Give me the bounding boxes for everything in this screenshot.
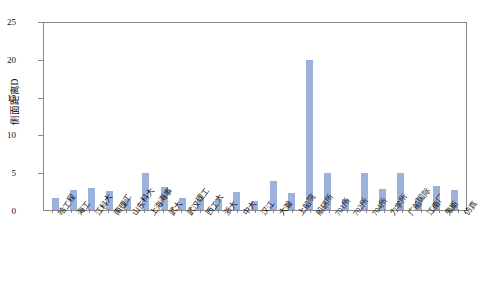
x-tick-mark bbox=[366, 209, 367, 213]
x-tick-mark bbox=[384, 209, 385, 213]
x-tick-mark bbox=[52, 209, 53, 213]
x-tick-mark bbox=[458, 209, 459, 213]
bar-slot bbox=[409, 23, 427, 210]
bar-series bbox=[44, 23, 466, 210]
bar-slot bbox=[101, 23, 119, 210]
x-tick-mark bbox=[292, 209, 293, 213]
x-tick-mark bbox=[200, 209, 201, 213]
bar-slot bbox=[46, 23, 64, 210]
x-tick-mark bbox=[163, 209, 164, 213]
x-tick-mark bbox=[181, 209, 182, 213]
bar-slot bbox=[319, 23, 337, 210]
bar-slot bbox=[282, 23, 300, 210]
bar-slot bbox=[82, 23, 100, 210]
bar-slot bbox=[264, 23, 282, 210]
bar-slot bbox=[210, 23, 228, 210]
y-tick-label: 10 bbox=[0, 130, 16, 140]
bar-slot bbox=[391, 23, 409, 210]
x-tick-mark bbox=[273, 209, 274, 213]
x-axis-labels: 哈工程海工江科大南理工山东科大上海海事武大武汉理工西工大浙大中大汉江大瀚上船院船… bbox=[43, 213, 467, 291]
bar-slot bbox=[337, 23, 355, 210]
x-tick-mark bbox=[218, 209, 219, 213]
x-tick-mark bbox=[255, 209, 256, 213]
plot-area bbox=[43, 22, 467, 211]
bar-slot bbox=[355, 23, 373, 210]
x-tick-mark bbox=[310, 209, 311, 213]
x-tick-mark bbox=[108, 209, 109, 213]
y-tick-label: 20 bbox=[0, 55, 16, 65]
x-tick-mark bbox=[89, 209, 90, 213]
x-tick-mark bbox=[71, 209, 72, 213]
y-tick-label: 25 bbox=[0, 17, 16, 27]
bar-slot bbox=[446, 23, 464, 210]
bar bbox=[306, 60, 313, 210]
bar-slot bbox=[228, 23, 246, 210]
bar-slot bbox=[155, 23, 173, 210]
bar-slot bbox=[246, 23, 264, 210]
y-tick-label: 0 bbox=[0, 206, 16, 216]
y-tick-label: 5 bbox=[0, 168, 16, 178]
x-tick-mark bbox=[421, 209, 422, 213]
x-tick-mark bbox=[439, 209, 440, 213]
y-tick-label: 15 bbox=[0, 93, 16, 103]
bar-slot bbox=[119, 23, 137, 210]
bar-chart: 侧面距离D 0510152025 哈工程海工江科大南理工山东科大上海海事武大武汉… bbox=[0, 0, 484, 292]
bar-slot bbox=[173, 23, 191, 210]
bar-slot bbox=[137, 23, 155, 210]
x-tick-mark bbox=[237, 209, 238, 213]
bar-slot bbox=[428, 23, 446, 210]
x-tick-mark bbox=[347, 209, 348, 213]
x-tick-mark bbox=[126, 209, 127, 213]
x-tick-mark bbox=[402, 209, 403, 213]
bar-slot bbox=[373, 23, 391, 210]
x-tick-mark bbox=[144, 209, 145, 213]
x-tick-mark bbox=[329, 209, 330, 213]
bar-slot bbox=[191, 23, 209, 210]
bar-slot bbox=[300, 23, 318, 210]
bar-slot bbox=[64, 23, 82, 210]
